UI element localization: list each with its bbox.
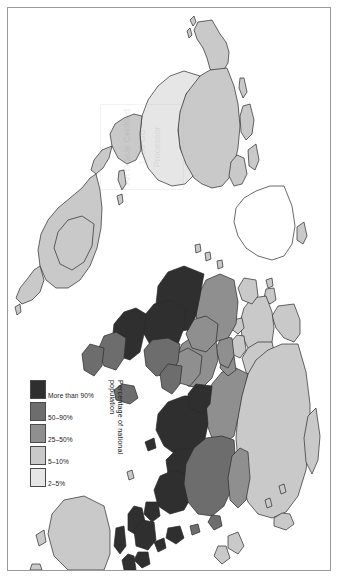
map-figure: Percentage of national population More t… xyxy=(0,0,347,583)
legend-item: 25–50% xyxy=(30,424,102,443)
legend-item: More than 90% xyxy=(30,380,102,399)
region-new-zealand-1 xyxy=(30,564,42,570)
legend-swatch xyxy=(30,424,46,443)
legend-item: 50–90% xyxy=(30,402,102,421)
legend-item: 5–10% xyxy=(30,446,102,465)
map-viewport: Percentage of national population More t… xyxy=(8,8,330,570)
region-island-2 xyxy=(217,260,223,269)
legend-swatch xyxy=(30,468,46,487)
legend-item: 2–5% xyxy=(30,468,102,487)
region-island-4 xyxy=(195,244,201,253)
map-legend: Percentage of national population More t… xyxy=(20,380,124,560)
legend-swatch xyxy=(30,380,46,399)
region-island-3 xyxy=(205,252,211,261)
legend-title: Percentage of national population xyxy=(107,380,124,560)
legend-swatch xyxy=(30,446,46,465)
legend-swatch xyxy=(30,402,46,421)
map-canvas: Percentage of national population More t… xyxy=(8,8,330,570)
legend-items: More than 90% 50–90% 25–50% xyxy=(30,380,102,560)
